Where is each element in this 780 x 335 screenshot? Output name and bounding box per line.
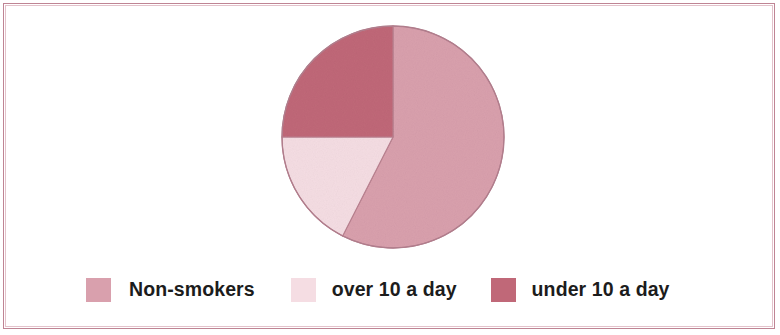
legend-item-non-smokers[interactable]: Non-smokers [86, 278, 255, 302]
figure-root: Non-smokers over 10 a day under 10 a day [0, 0, 780, 335]
chart-legend: Non-smokers over 10 a day under 10 a day [0, 272, 780, 308]
pie-chart-svg [281, 24, 505, 250]
legend-item-under-10-a-day[interactable]: under 10 a day [491, 278, 670, 302]
legend-swatch-over-10-a-day [291, 278, 316, 302]
legend-label-non-smokers: Non-smokers [129, 280, 255, 300]
pie-chart [281, 24, 505, 250]
legend-item-over-10-a-day[interactable]: over 10 a day [291, 278, 457, 302]
legend-swatch-non-smokers [86, 278, 111, 302]
legend-label-under-10-a-day: under 10 a day [532, 280, 670, 300]
legend-label-over-10-a-day: over 10 a day [332, 280, 457, 300]
pie-slice-under-10-a-day[interactable] [282, 26, 393, 137]
legend-swatch-under-10-a-day [491, 278, 516, 302]
